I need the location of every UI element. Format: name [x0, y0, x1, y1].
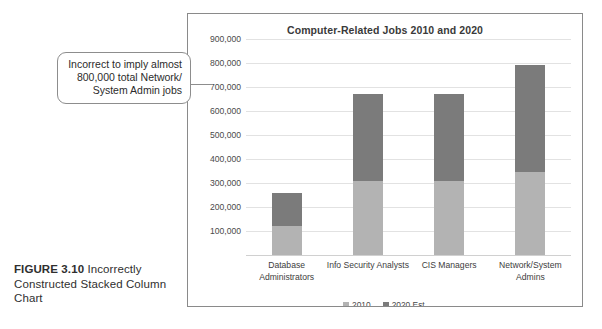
bar-segment-2010[interactable]: [434, 181, 464, 255]
legend-label: 2020 Est.: [392, 300, 427, 307]
y-tick-label: 500,000: [187, 130, 241, 140]
legend-label: 2010: [352, 300, 371, 307]
gridline-800000: [246, 63, 571, 64]
callout-line-1: Incorrect to imply almost: [66, 58, 182, 71]
chart-legend: 20102020 Est.: [188, 300, 582, 307]
y-tick-label: 100,000: [187, 226, 241, 236]
legend-item[interactable]: 2020 Est.: [383, 300, 427, 307]
y-tick-label: 200,000: [187, 202, 241, 212]
callout-annotation: Incorrect to imply almost 800,000 total …: [57, 52, 191, 104]
callout-line-3: System Admin jobs: [66, 84, 182, 97]
x-category-label: Database Administrators: [241, 260, 333, 283]
bar-segment-2010[interactable]: [272, 226, 302, 255]
bar-column[interactable]: [515, 65, 545, 255]
y-tick-label: 900,000: [187, 34, 241, 44]
x-category-label: CIS Managers: [403, 260, 495, 272]
legend-swatch-icon: [383, 302, 389, 307]
callout-line-2: 800,000 total Network/: [66, 71, 182, 84]
figure-caption: FIGURE 3.10 Incorrectly Constructed Stac…: [14, 262, 182, 306]
y-tick-label: 400,000: [187, 154, 241, 164]
bar-segment-2010[interactable]: [353, 181, 383, 255]
y-tick-label: 600,000: [187, 106, 241, 116]
axis-baseline: [246, 255, 571, 256]
gridline-900000: [246, 39, 571, 40]
bar-segment-2010[interactable]: [515, 172, 545, 255]
y-tick-label: 300,000: [187, 178, 241, 188]
bar-segment-2020-est-[interactable]: [353, 94, 383, 180]
chart-title: Computer-Related Jobs 2010 and 2020: [188, 24, 582, 36]
y-tick-label: 800,000: [187, 58, 241, 68]
legend-item[interactable]: 2010: [343, 300, 371, 307]
plot-area: 900,000800,000700,000600,000500,000400,0…: [246, 39, 571, 255]
bar-column[interactable]: [353, 94, 383, 255]
legend-swatch-icon: [343, 302, 349, 307]
bar-segment-2020-est-[interactable]: [515, 65, 545, 172]
bar-segment-2020-est-[interactable]: [434, 94, 464, 180]
x-category-label: Info Security Analysts: [322, 260, 414, 272]
bar-column[interactable]: [434, 94, 464, 255]
x-category-label: Network/System Admins: [484, 260, 576, 283]
x-axis-category-labels: Database AdministratorsInfo Security Ana…: [246, 260, 571, 294]
bar-segment-2020-est-[interactable]: [272, 193, 302, 227]
figure-number: FIGURE 3.10: [14, 263, 84, 275]
bar-column[interactable]: [272, 193, 302, 255]
chart-frame: Computer-Related Jobs 2010 and 2020 900,…: [187, 13, 583, 307]
callout-leader-line: [191, 84, 213, 85]
